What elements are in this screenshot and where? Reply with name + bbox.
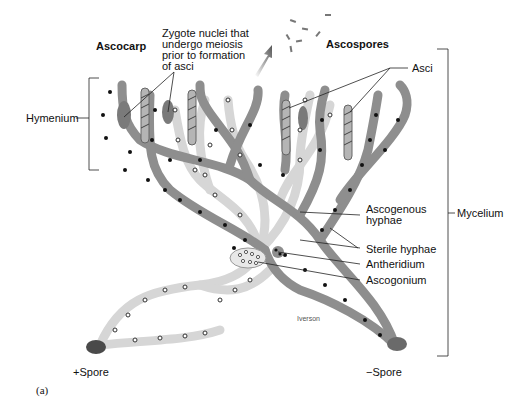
diagram-artwork	[0, 0, 532, 406]
label-asci: Asci	[412, 62, 433, 74]
zygote-cell-1	[117, 101, 131, 129]
label-ascocarp: Ascocarp	[96, 40, 146, 52]
panel-label: (a)	[36, 384, 48, 396]
label-ascospores: Ascospores	[326, 38, 389, 50]
label-hymenium: Hymenium	[26, 112, 79, 124]
ascogonium-cell	[230, 248, 266, 268]
zygote-cell-3	[298, 106, 308, 130]
label-minus-spore: −Spore	[366, 366, 402, 378]
label-zygote-nuclei-line4: of asci	[162, 60, 194, 72]
minus-spore-shape	[387, 337, 407, 351]
plus-spore-shape	[86, 340, 106, 354]
label-mycelium: Mycelium	[457, 207, 503, 219]
label-ascogonium: Ascogonium	[366, 274, 427, 286]
released-ascospores	[286, 14, 331, 52]
label-antheridium: Antheridium	[366, 258, 425, 270]
label-sterile-hyphae: Sterile hyphae	[366, 243, 436, 255]
ascomycete-diagram: Ascocarp Zygote nuclei that undergo meio…	[0, 0, 532, 406]
label-plus-spore: +Spore	[73, 366, 109, 378]
artist-signature: Iverson	[297, 313, 320, 325]
label-ascogenous-hyphae-line2: hyphae	[366, 214, 402, 226]
release-arrow-icon	[255, 45, 272, 77]
